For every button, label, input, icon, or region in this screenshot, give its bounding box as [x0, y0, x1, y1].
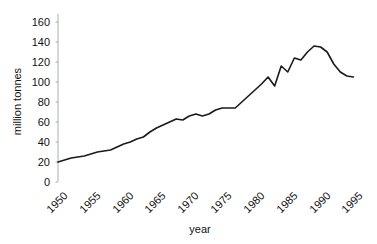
y-tick-label: 60	[20, 117, 50, 128]
y-tick-label: 20	[20, 157, 50, 168]
data-series-line	[58, 46, 353, 162]
y-tick-label: 120	[20, 57, 50, 68]
y-tick-label: 140	[20, 37, 50, 48]
y-axis-title: million tonnes	[12, 59, 23, 145]
y-tick-label: 0	[20, 177, 50, 188]
y-tick-label: 100	[20, 77, 50, 88]
y-tick-label: 80	[20, 97, 50, 108]
chart-figure: 020406080100120140160 195019551960196519…	[0, 0, 377, 244]
axis-lines	[58, 14, 360, 182]
x-axis-title: year	[52, 224, 348, 235]
y-tick-label: 40	[20, 137, 50, 148]
y-tick-label: 160	[20, 17, 50, 28]
